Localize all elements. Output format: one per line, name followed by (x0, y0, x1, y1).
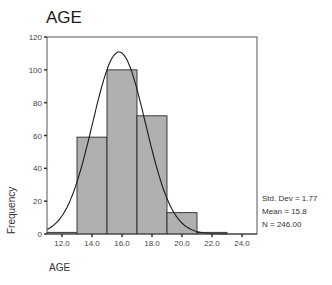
x-axis-label: AGE (49, 262, 70, 273)
y-tick-label: 120 (29, 33, 43, 42)
y-tick-label: 20 (33, 197, 42, 206)
x-tick-label: 18.0 (144, 239, 160, 248)
histogram-bar (107, 70, 137, 234)
histogram-bars (47, 70, 227, 234)
histogram-bar (77, 137, 107, 234)
y-tick-label: 40 (33, 164, 42, 173)
n-stat: N = 246.00 (262, 218, 317, 231)
x-tick-label: 14.0 (84, 239, 100, 248)
mean-stat: Mean = 15.8 (262, 205, 317, 218)
x-tick-label: 16.0 (114, 239, 130, 248)
x-tick-label: 20.0 (174, 239, 190, 248)
y-tick-label: 0 (38, 230, 43, 239)
std-dev-stat: Std. Dev = 1.77 (262, 192, 317, 205)
histogram-bar (137, 116, 167, 234)
stats-box: Std. Dev = 1.77 Mean = 15.8 N = 246.00 (262, 192, 317, 231)
y-axis-label: Frequency (6, 187, 17, 234)
y-tick-label: 100 (29, 66, 43, 75)
histogram-plot: 020406080100120 12.014.016.018.020.022.0… (0, 0, 332, 285)
y-tick-label: 80 (33, 99, 42, 108)
x-tick-label: 24.0 (234, 239, 250, 248)
y-tick-label: 60 (33, 132, 42, 141)
x-axis-ticks: 12.014.016.018.020.022.024.0 (54, 234, 250, 248)
x-tick-label: 12.0 (54, 239, 70, 248)
y-axis-ticks: 020406080100120 (29, 33, 47, 239)
x-tick-label: 22.0 (204, 239, 220, 248)
